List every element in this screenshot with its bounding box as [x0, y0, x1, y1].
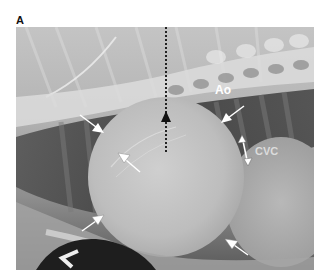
radiograph-svg: Ao CVC [16, 27, 314, 270]
aorta-label: Ao [215, 83, 231, 97]
cvc-label: CVC [255, 145, 278, 157]
panel-label: A [16, 14, 24, 26]
radiograph-image: Ao CVC [16, 27, 314, 270]
